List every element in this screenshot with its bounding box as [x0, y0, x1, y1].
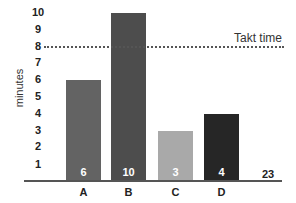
y-tick-label: 1 [28, 158, 48, 170]
takt-time-line [44, 46, 284, 48]
y-tick-label: 2 [28, 140, 48, 152]
bar-value-label: 10 [111, 166, 146, 178]
bar-value-label: 3 [158, 166, 193, 178]
bar-value-label: 6 [66, 166, 101, 178]
y-tick-label: 6 [28, 73, 48, 85]
bar-chart: minutes 12345678910 6A10B3C4D Takt time … [0, 0, 296, 203]
x-tick-label: D [204, 186, 239, 198]
bar-b: 10 [111, 13, 146, 181]
y-tick-label: 7 [28, 56, 48, 68]
y-tick-label: 9 [28, 23, 48, 35]
y-tick-label: 10 [28, 6, 48, 18]
y-tick-label: 5 [28, 90, 48, 102]
bar-value-label: 4 [204, 166, 239, 178]
bar-a: 6 [66, 80, 101, 181]
takt-time-label: Takt time [234, 31, 282, 45]
y-tick-label: 3 [28, 124, 48, 136]
total-label: 23 [262, 168, 274, 180]
x-tick-label: A [66, 186, 101, 198]
y-tick-label: 4 [28, 107, 48, 119]
bar-d: 4 [204, 114, 239, 181]
bar-c: 3 [158, 131, 193, 181]
x-axis-line [24, 180, 282, 182]
x-tick-label: C [158, 186, 193, 198]
x-tick-label: B [111, 186, 146, 198]
y-axis-label: minutes [13, 63, 25, 113]
